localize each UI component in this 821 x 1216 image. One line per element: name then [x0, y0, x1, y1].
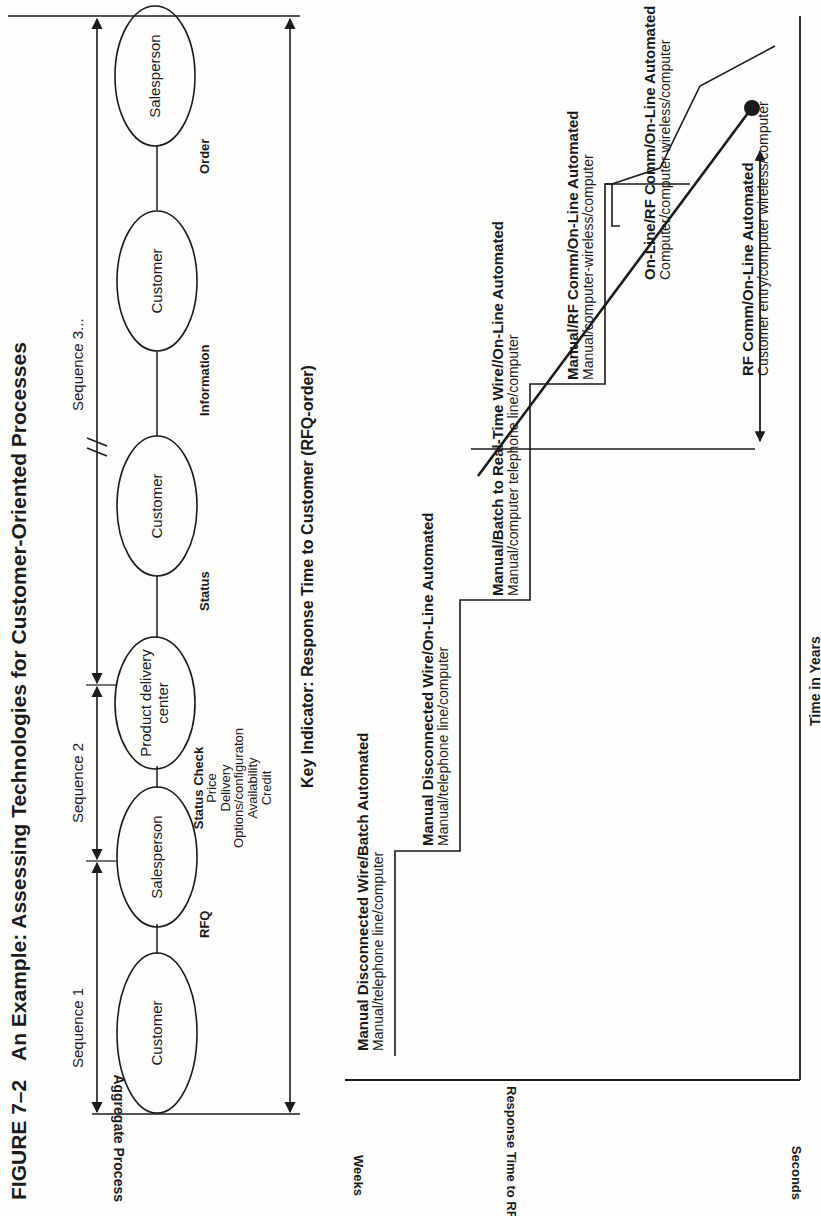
figure-landscape: FIGURE 7–2 An Example: Assessing Technol… [0, 0, 821, 1216]
figure-frame: FIGURE 7–2 An Example: Assessing Technol… [0, 0, 821, 1216]
reference-arrow [0, 0, 821, 1216]
